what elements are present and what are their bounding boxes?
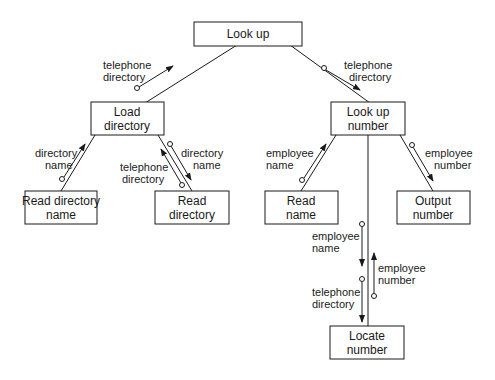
module-read-name-label-2: name: [286, 208, 316, 222]
module-read-directory-name: Read directory name: [22, 191, 100, 224]
couple-telephone-directory-lookupnumber-to-locate: telephone directory: [312, 277, 365, 323]
module-look-up-number-label-2: number: [348, 119, 389, 133]
module-read-directory: Read directory: [155, 191, 229, 224]
couple-label-2: name: [193, 159, 221, 171]
couple-label-1: employee: [425, 147, 473, 159]
couple-label-1: directory: [181, 147, 224, 159]
structure-chart: Look up Load directory Look up number Re…: [0, 0, 495, 380]
couple-label-2: name: [266, 159, 294, 171]
module-read-name-label-1: Read: [287, 194, 316, 208]
couple-label-1: telephone: [312, 286, 360, 298]
couple-label-2: directory: [312, 298, 355, 310]
module-read-directory-label-1: Read: [178, 194, 207, 208]
module-locate-number-label-1: Locate: [349, 329, 385, 343]
couple-employee-name-readname-to-lookupnumber: employee name: [266, 144, 326, 183]
couple-label-1: employee: [378, 262, 426, 274]
module-output-number: Output number: [397, 191, 470, 224]
connector-lookupnumber-output: [400, 135, 433, 191]
module-look-up-number: Look up number: [331, 102, 405, 135]
couple-label-2: directory: [349, 71, 392, 83]
couple-label-1: telephone: [120, 161, 168, 173]
module-look-up-label: Look up: [227, 27, 270, 41]
module-locate-number: Locate number: [330, 326, 404, 359]
module-read-directory-name-label-2: name: [46, 208, 76, 222]
connector-lookup-load: [145, 45, 237, 103]
couple-label-2: number: [434, 159, 472, 171]
couple-directory-name-readdirname-to-load: directory name: [35, 144, 85, 182]
couple-label-1: telephone: [344, 59, 392, 71]
couple-label-2: directory: [103, 71, 146, 83]
module-load-directory: Load directory: [91, 102, 164, 135]
couple-employee-name-lookupnumber-to-locate: employee name: [312, 222, 365, 267]
couple-label-2: number: [378, 274, 416, 286]
module-load-directory-label-1: Load: [114, 105, 141, 119]
module-read-name: Read name: [265, 191, 338, 224]
module-output-number-label-1: Output: [415, 194, 452, 208]
module-read-directory-name-label-1: Read directory: [22, 194, 100, 208]
couple-label-2: directory: [122, 173, 165, 185]
couple-telephone-directory-load-to-lookup: telephone directory: [103, 59, 173, 91]
module-read-directory-label-2: directory: [169, 208, 215, 222]
module-locate-number-label-2: number: [347, 343, 388, 357]
connector-lookupnumber-readname: [301, 135, 336, 191]
couple-telephone-directory-readdir-to-load: telephone directory: [120, 149, 185, 188]
couple-telephone-directory-lookup-to-lookupnumber: telephone directory: [322, 59, 393, 90]
couple-employee-number-lookupnumber-to-output: employee number: [410, 143, 473, 182]
module-look-up: Look up: [194, 22, 302, 46]
module-output-number-label-2: number: [413, 208, 454, 222]
module-load-directory-label-2: directory: [104, 119, 150, 133]
couple-label-1: employee: [312, 230, 360, 242]
couple-employee-number-locate-to-lookupnumber: employee number: [372, 253, 426, 299]
couple-label-1: employee: [266, 147, 314, 159]
couple-label-1: directory: [35, 147, 78, 159]
couple-label-1: telephone: [103, 59, 151, 71]
couple-label-2: name: [45, 159, 73, 171]
module-look-up-number-label-1: Look up: [347, 105, 390, 119]
couple-label-2: name: [312, 242, 340, 254]
